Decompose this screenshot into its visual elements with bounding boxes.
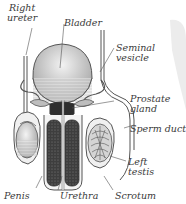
label-right-ureter: Right ureter	[7, 3, 37, 23]
background-shade	[170, 20, 186, 110]
label-left-testis: Left testis	[128, 157, 154, 177]
label-seminal-vesicle-line2: vesicle	[116, 53, 155, 63]
anatomy-diagram: Right ureter Bladder Seminal vesicle Pro…	[0, 0, 186, 204]
label-penis: Penis	[4, 191, 30, 201]
label-prostate-line2: gland	[130, 104, 170, 114]
left-testis	[86, 118, 114, 168]
label-bladder: Bladder	[64, 18, 102, 28]
label-right-ureter-line2: ureter	[7, 13, 37, 23]
label-scrotum: Scrotum	[115, 191, 156, 201]
label-prostate-gland: Prostate gland	[130, 94, 170, 114]
right-testis	[14, 112, 40, 164]
penis-corpus-right	[65, 120, 79, 186]
bladder-hatching	[33, 78, 92, 102]
label-urethra: Urethra	[60, 191, 98, 201]
penis-corpus-left	[47, 120, 61, 186]
label-seminal-vesicle: Seminal vesicle	[116, 43, 155, 63]
label-sperm-duct: Sperm duct	[130, 124, 186, 134]
label-left-testis-line2: testis	[128, 167, 154, 177]
